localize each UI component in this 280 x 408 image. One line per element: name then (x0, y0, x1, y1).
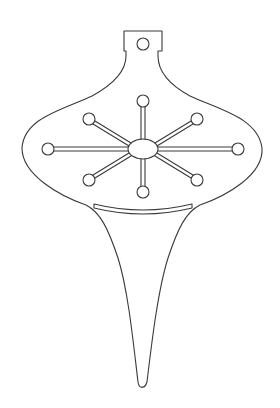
snowflake-arm-upper-left (93, 121, 131, 146)
snowflake-node-upper-right (191, 113, 203, 125)
snowflake-node-lower-left (83, 174, 95, 186)
snowflake-arm-lower-left (93, 153, 131, 178)
ornament-body-outline (22, 31, 262, 387)
snowflake-node-bottom (137, 186, 149, 198)
snowflake-arm-right (158, 147, 232, 151)
snowflake-arm-left (54, 147, 128, 151)
snowflake-arm-lower-right (155, 153, 193, 178)
snowflake-center (128, 139, 158, 159)
ornament-canvas: Ornament template Line-art template of a… (0, 0, 280, 408)
snowflake-node-upper-left (83, 113, 95, 125)
curved-slot (94, 204, 192, 214)
snowflake-node-left (42, 143, 54, 155)
hanging-hole-icon (137, 38, 149, 50)
snowflake-node-top (137, 95, 149, 107)
snowflake-arm-upper-right (155, 121, 193, 146)
snowflake-node-right (232, 143, 244, 155)
snowflake-cutout (42, 95, 244, 198)
snowflake-node-lower-right (191, 174, 203, 186)
snowflake-arm-top (141, 107, 145, 139)
snowflake-arm-bottom (141, 159, 145, 186)
ornament-drawing (0, 0, 280, 408)
